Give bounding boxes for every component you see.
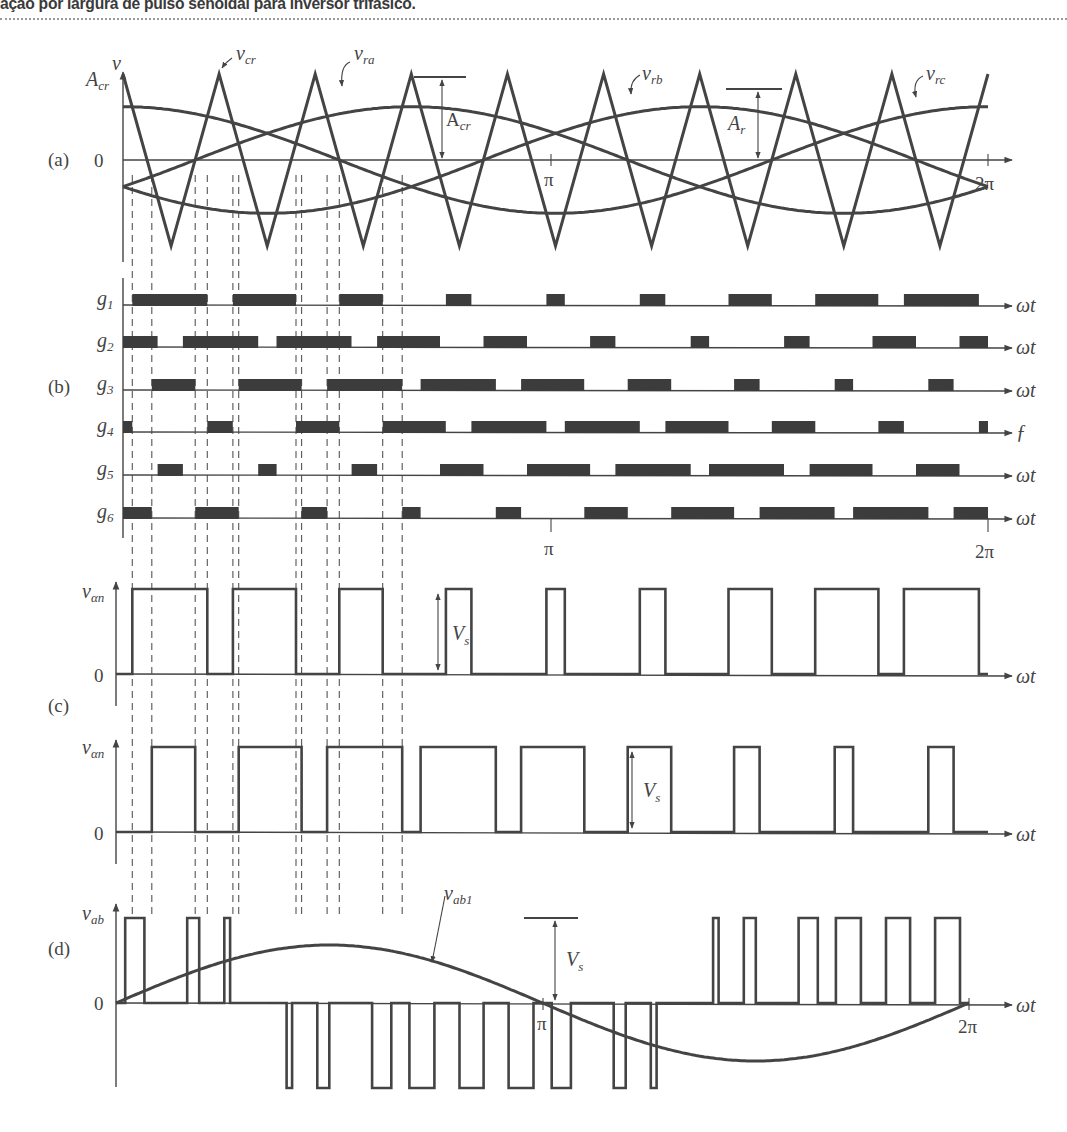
vra-leader [342,62,350,86]
gate-row-g3: g3ωt [97,372,1036,401]
gate-g2-pulse [277,336,352,348]
gate-g4-pulse [471,421,546,433]
acr-annotation: Acr [446,109,472,133]
gate-g3-pulse [628,379,672,391]
panel-b-label: (b) [48,376,70,398]
gate-g5-axis-label: ωt [1016,464,1036,486]
panel-a-carrier-reference: (a) 0 v Acr π 2π vcr vra vrb vrc Acr Ar [48,42,1012,262]
gate-g1-label: g1 [97,287,114,312]
van-lower-label: vαn [82,736,104,761]
vrb-leader [631,75,640,94]
gate-g2-pulse [183,336,258,348]
gate-g1-pulse [815,294,878,306]
gate-g3-pulse [421,379,496,391]
gate-g4-pulse [772,421,816,433]
gate-g1-axis-label: ωt [1016,294,1036,316]
vrc-label: vrc [926,62,945,87]
panel-c-phase-voltages: (c) vαn 0 ωt Vs vαn 0 ωt Vs [48,580,1036,864]
gate-g1-pulse [546,294,564,306]
panel-d-line-voltage: (d) vab 0 ωt π 2π Vs vab1 [48,882,1036,1088]
gate-g4-pulse [123,421,132,433]
panel-a-zero-label: 0 [94,150,104,171]
gate-g5-pulse [916,464,960,476]
gate-g5-label: g5 [97,457,114,482]
vab1-leader [432,896,445,962]
gate-g3-pulse [734,379,760,391]
gate-g3-pulse [239,379,302,391]
gate-row-g2: g2ωt [97,329,1036,358]
vra-label: vra [354,42,375,67]
vcr-leader [222,58,232,68]
gate-g1-pulse [339,294,383,306]
gate-g3-pulse [521,379,584,391]
gate-g6-pulse [671,507,734,519]
pwm-figure: (a) 0 v Acr π 2π vcr vra vrb vrc Acr Ar … [0,0,1067,1132]
gate-g3-pulse [928,379,953,391]
gate-g1-pulse [132,294,207,306]
gate-g6-pulse [123,507,152,519]
gate-g6-pulse [302,507,328,519]
panel-b-2pi-label: 2π [975,541,995,562]
gate-g5-pulse [158,464,183,476]
gate-g2-pulse [691,336,709,348]
gate-g2-pulse [123,336,158,348]
panel-c-lower-zero: 0 [94,823,104,844]
gate-g6-pulse [760,507,835,519]
panel-a-label: (a) [48,149,69,171]
gate-g5-pulse [258,464,276,476]
gate-g2-pulse [960,336,989,348]
panel-c-label: (c) [48,695,69,717]
gate-g2-pulse [784,336,810,348]
gate-g5-pulse [527,464,590,476]
ar-annotation: Ar [726,112,746,137]
gate-g5-pulse [440,464,484,476]
vrb-label: vrb [642,62,663,87]
gate-g2-pulse [873,336,917,348]
vs-upper-label: Vs [452,622,469,648]
van-upper-waveform [116,589,988,674]
gate-g1-pulse [640,294,666,306]
gate-g1-pulse [904,294,979,306]
gate-g6-pulse [584,507,628,519]
gate-g2-pulse [590,336,615,348]
panel-c-upper-wt: ωt [1016,665,1036,687]
panel-c-lower-wt: ωt [1016,823,1036,845]
gate-g6-pulse [954,507,988,519]
gate-g4-label: g4 [97,414,114,439]
gate-g3-label: g3 [97,372,114,397]
panel-c-upper-zero: 0 [94,665,104,686]
gate-g4-pulse [296,421,339,433]
panel-b-pi-label: π [544,538,554,559]
panel-d-pi-label: π [537,1013,547,1034]
gate-g1-pulse [446,294,472,306]
panel-d-wt: ωt [1016,994,1036,1016]
gate-g4-axis-label: ƒ [1016,421,1026,443]
gate-g2-axis-label: ωt [1016,336,1036,358]
switching-instant-guides [132,175,402,918]
vs-lower-label: Vs [643,779,660,805]
gate-g3-pulse [327,379,402,391]
gate-row-g5: g5ωt [97,457,1036,486]
gate-g6-pulse [195,507,239,519]
vbn-lower-waveform [116,747,988,832]
gate-g2-label: g2 [97,329,114,354]
gate-g6-label: g6 [97,500,114,525]
gate-g5-pulse [709,464,784,476]
gate-g2-pulse [377,336,440,348]
gate-g3-axis-label: ωt [1016,379,1036,401]
gate-g1-pulse [729,294,772,306]
panel-b-gate-signals: (b) g1ωtg2ωtg3ωtg4ƒg5ωtg6ωt π 2π [48,278,1036,562]
gate-g5-pulse [352,464,378,476]
panel-d-zero: 0 [94,993,104,1014]
gate-g4-pulse [878,421,904,433]
vab1-label: vab1 [444,882,472,907]
panel-d-label: (d) [48,938,70,960]
gate-g4-pulse [979,421,988,433]
gate-g3-pulse [835,379,853,391]
gate-row-g6: g6ωt [97,500,1036,529]
gate-g2-pulse [484,336,528,348]
gate-g6-pulse [496,507,521,519]
gate-g4-pulse [207,421,233,433]
gate-g3-pulse [152,379,196,391]
panel-a-y-label: v [112,52,121,74]
